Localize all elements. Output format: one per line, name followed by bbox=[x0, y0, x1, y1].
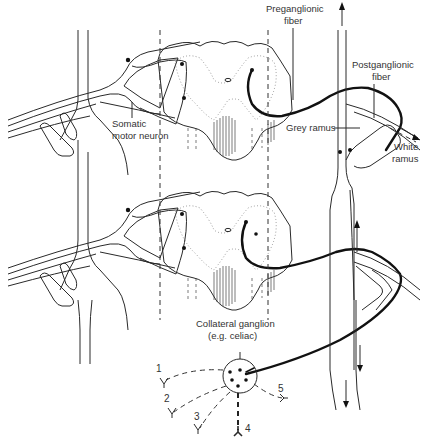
target-4-label: 4 bbox=[245, 423, 251, 434]
target-1-label: 1 bbox=[156, 363, 162, 374]
collateral-label-1: Collateral ganglion bbox=[196, 318, 275, 329]
target-5-label: 5 bbox=[278, 383, 284, 394]
collateral-label-2: (e.g. celiac) bbox=[208, 330, 257, 341]
left-trunk bbox=[40, 30, 128, 364]
target-2-label: 2 bbox=[164, 393, 170, 404]
target-3-label: 3 bbox=[194, 411, 200, 422]
lower-ventral-hatching bbox=[188, 266, 274, 306]
somatic-label-1: Somatic bbox=[112, 118, 147, 129]
somatic-label-2: motor neuron bbox=[112, 130, 169, 141]
preganglionic-label-2: fiber bbox=[284, 15, 302, 26]
upper-ventral-hatching bbox=[188, 116, 274, 156]
white-ramus-label-2: ramus bbox=[392, 153, 419, 164]
sympathetic-diagram: 1 2 3 4 5 Preganglionic fiber Postgangli… bbox=[0, 0, 430, 444]
postganglionic-targets bbox=[160, 370, 288, 436]
upper-spinal-nerve bbox=[8, 42, 200, 138]
grey-ramus-label: Grey ramus bbox=[286, 122, 336, 133]
white-ramus-label-1: White bbox=[394, 141, 418, 152]
preganglionic-label-1: Preganglionic bbox=[266, 3, 324, 14]
postganglionic-label-1: Postganglionic bbox=[352, 59, 414, 70]
postganglionic-label-2: fiber bbox=[372, 71, 390, 82]
